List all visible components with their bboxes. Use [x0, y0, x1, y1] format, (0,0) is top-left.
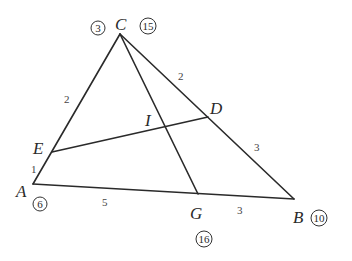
- circled-number-g: 16: [196, 231, 212, 247]
- segment-ab: [33, 184, 294, 199]
- vertex-label-e: E: [32, 139, 44, 158]
- length-label-ea: 1: [31, 163, 37, 175]
- circled-number-c-left: 3: [91, 21, 105, 35]
- circled-number-c-right: 15: [140, 18, 156, 34]
- circled-number-a: 6: [33, 197, 47, 211]
- svg-text:3: 3: [95, 22, 101, 34]
- segment-cg: [120, 34, 198, 194]
- vertex-label-c: C: [115, 15, 127, 34]
- svg-text:6: 6: [37, 198, 43, 210]
- length-label-db: 3: [254, 141, 260, 153]
- vertex-label-b: B: [293, 208, 304, 227]
- length-label-cd: 2: [178, 70, 184, 82]
- svg-text:15: 15: [143, 20, 155, 32]
- vertex-label-a: A: [15, 182, 27, 201]
- vertex-label-i: I: [144, 111, 152, 130]
- svg-text:16: 16: [199, 233, 211, 245]
- svg-text:10: 10: [314, 212, 326, 224]
- circled-number-b: 10: [311, 210, 327, 226]
- segment-ed: [52, 117, 208, 152]
- segment-ac: [33, 34, 120, 184]
- length-label-gb: 3: [237, 204, 243, 216]
- length-label-ag: 5: [102, 196, 108, 208]
- triangle-diagram: C D I E A G B 2 2 1 5 3 3 3 15 6 10 16: [0, 0, 352, 261]
- vertex-label-g: G: [190, 204, 202, 223]
- length-label-ce: 2: [64, 93, 70, 105]
- vertex-label-d: D: [209, 99, 223, 118]
